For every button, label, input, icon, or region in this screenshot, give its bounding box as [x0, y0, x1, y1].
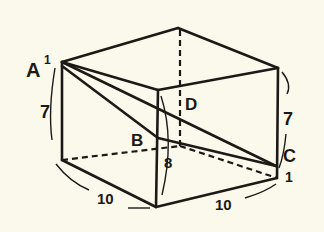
edge-top-left: [62, 28, 178, 62]
diagonal-a1-to-c: [62, 62, 276, 166]
edge-top-right: [158, 68, 278, 90]
dimension-bottom-right-length: 10: [215, 196, 232, 213]
vertex-label-b: B: [131, 131, 143, 150]
vertex-label-a1-superscript: 1: [44, 53, 51, 67]
vertex-label-d: D: [185, 95, 197, 114]
vertex-label-c: C: [283, 146, 296, 166]
hidden-edge-bottom-left: [62, 146, 180, 160]
arc-right-height: [282, 72, 289, 94]
edge-top-back: [178, 28, 278, 68]
arc-bottom-left: [56, 164, 89, 190]
corner-mark-label: 1: [285, 169, 293, 185]
arc-bottom-right: [245, 184, 276, 198]
dimension-left-height: 7: [40, 102, 50, 122]
prism-diagram: A 1 B D C 7 7 8 10 10 1: [0, 0, 324, 232]
arc-left-height: [51, 68, 55, 140]
visible-edges: [62, 28, 278, 207]
dimension-front-height: 8: [164, 154, 172, 171]
edge-right-vertical: [277, 68, 278, 178]
segment-b-to-c: [158, 138, 276, 166]
dimension-bottom-left-length: 10: [97, 190, 114, 207]
vertex-label-a1: A: [26, 59, 40, 81]
dimension-right-height: 7: [283, 109, 293, 129]
